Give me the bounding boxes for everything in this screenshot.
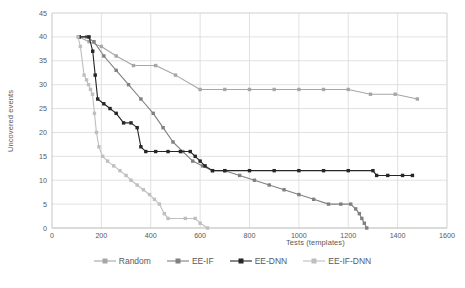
legend-item-ee-if-dnn[interactable]: EE-IF-DNN [303, 256, 371, 266]
legend-label-ee-if-dnn: EE-IF-DNN [328, 256, 371, 266]
svg-text:25: 25 [39, 104, 47, 113]
legend-marker-ee-if-icon [167, 256, 189, 266]
svg-text:800: 800 [244, 231, 256, 240]
chart-legend: Random EE-IF EE-DNN EE-IF-DNN [0, 256, 465, 266]
legend-marker-ee-dnn-icon [230, 256, 252, 266]
grid-lines [52, 13, 447, 228]
legend-marker-ee-if-dnn-icon [303, 256, 325, 266]
legend-item-ee-if[interactable]: EE-IF [167, 256, 214, 266]
svg-text:10: 10 [39, 176, 47, 185]
legend-item-ee-dnn[interactable]: EE-DNN [230, 256, 288, 266]
series-random [77, 35, 419, 101]
svg-text:1600: 1600 [439, 231, 455, 240]
svg-text:5: 5 [43, 200, 47, 209]
svg-text:1400: 1400 [390, 231, 406, 240]
svg-text:40: 40 [39, 32, 47, 41]
svg-text:0: 0 [43, 224, 47, 233]
legend-marker-random-icon [94, 256, 116, 266]
svg-text:45: 45 [39, 9, 47, 18]
svg-text:20: 20 [39, 128, 47, 137]
y-axis-title: Uncovered events [6, 90, 15, 152]
series-ee-dnn [77, 35, 414, 177]
chart-container: 051015202530354045 020040060080010001200… [0, 0, 465, 288]
legend-label-ee-dnn: EE-DNN [255, 256, 288, 266]
x-axis-title: Tests (templates) [286, 238, 345, 247]
svg-text:400: 400 [145, 231, 157, 240]
svg-text:30: 30 [39, 80, 47, 89]
svg-text:15: 15 [39, 152, 47, 161]
legend-label-random: Random [119, 256, 151, 266]
legend-label-ee-if: EE-IF [192, 256, 214, 266]
svg-text:600: 600 [194, 231, 206, 240]
line-chart-plot: 051015202530354045 020040060080010001200… [0, 0, 465, 288]
y-tick-labels: 051015202530354045 [39, 9, 47, 233]
svg-text:200: 200 [95, 231, 107, 240]
legend-item-random[interactable]: Random [94, 256, 151, 266]
svg-text:35: 35 [39, 56, 47, 65]
svg-text:0: 0 [50, 231, 54, 240]
x-tick-labels: 02004006008001000120014001600 [50, 231, 455, 240]
